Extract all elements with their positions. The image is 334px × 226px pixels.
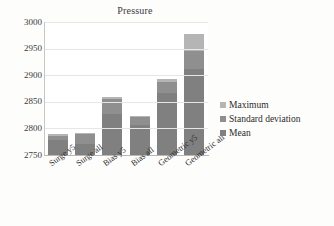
legend-label: Maximum — [229, 100, 269, 110]
legend-item[interactable]: Mean — [220, 126, 301, 139]
x-axis-tick-label: Surge all — [74, 142, 104, 168]
legend-label: Standard deviation — [229, 114, 301, 124]
x-axis-tick-label: Surge y5 — [47, 142, 77, 168]
x-axis-tick-label: Bias all — [129, 145, 156, 168]
pressure-chart: Pressure 275028002850290029503000 Surge … — [0, 0, 334, 226]
legend-label: Mean — [229, 128, 251, 138]
chart-legend: MaximumStandard deviationMean — [220, 98, 301, 140]
legend-swatch-icon — [220, 130, 226, 136]
x-axis-tick-label: Bias y5 — [101, 145, 128, 168]
legend-item[interactable]: Maximum — [220, 98, 301, 111]
legend-item[interactable]: Standard deviation — [220, 112, 301, 125]
legend-swatch-icon — [220, 116, 226, 122]
legend-swatch-icon — [220, 102, 226, 108]
